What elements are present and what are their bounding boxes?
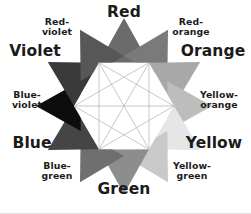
label-green: Green xyxy=(98,181,151,198)
label-blue: Blue xyxy=(12,135,51,152)
label-blue-green: Blue- green xyxy=(42,161,73,181)
label-yellow-green: Yellow- green xyxy=(173,161,211,181)
label-orange: Orange xyxy=(181,43,246,60)
label-red-violet: Red- violet xyxy=(42,17,72,37)
label-red: Red xyxy=(107,4,141,21)
label-violet: Violet xyxy=(9,43,61,60)
color-wheel-diagram: Red Red- orange Orange Yellow- orange Ye… xyxy=(0,0,251,214)
label-blue-violet: Blue- violet xyxy=(12,90,42,110)
label-red-orange: Red- orange xyxy=(172,17,209,37)
label-yellow-orange: Yellow- orange xyxy=(200,90,238,110)
label-yellow: Yellow xyxy=(186,135,243,152)
